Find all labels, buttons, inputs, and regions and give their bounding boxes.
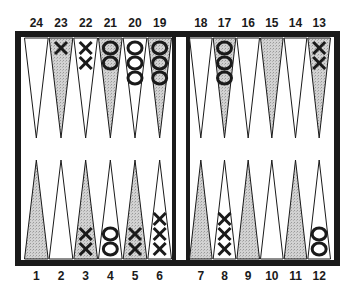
top-label-17: 17 [213,17,237,29]
bottom-label-2: 2 [49,270,73,282]
bottom-label-4: 4 [98,270,122,282]
bottom-label-10: 10 [260,270,284,282]
point-3[interactable] [74,160,98,259]
point-15[interactable] [261,38,284,138]
bottom-label-7: 7 [189,270,213,282]
point-11[interactable] [284,160,307,259]
bottom-label-6: 6 [148,270,172,282]
top-label-15: 15 [260,17,284,29]
bottom-label-5: 5 [123,270,147,282]
bottom-label-8: 8 [213,270,237,282]
point-9[interactable] [237,160,260,259]
top-label-14: 14 [284,17,308,29]
top-label-22: 22 [74,17,98,29]
point-13[interactable] [308,38,331,138]
top-label-18: 18 [189,17,213,29]
point-14[interactable] [284,38,307,138]
backgammon-board [0,0,353,298]
top-label-23: 23 [49,17,73,29]
top-label-19: 19 [148,17,172,29]
bar-left-edge [172,36,176,261]
point-5[interactable] [123,160,147,259]
point-16[interactable] [237,38,260,138]
top-label-16: 16 [236,17,260,29]
top-label-24: 24 [24,17,48,29]
top-label-13: 13 [307,17,331,29]
top-label-20: 20 [123,17,147,29]
point-10[interactable] [261,160,284,259]
point-18[interactable] [190,38,213,138]
bottom-label-9: 9 [236,270,260,282]
bottom-label-1: 1 [24,270,48,282]
point-24[interactable] [25,38,49,138]
bottom-label-3: 3 [74,270,98,282]
checkers-layer [55,42,326,255]
points-layer [25,38,331,259]
point-23[interactable] [49,38,73,138]
top-label-21: 21 [98,17,122,29]
point-6[interactable] [148,160,172,259]
point-22[interactable] [74,38,98,138]
bar-right-edge [186,36,190,261]
bottom-label-11: 11 [284,270,308,282]
point-7[interactable] [190,160,213,259]
bottom-label-12: 12 [307,270,331,282]
point-8[interactable] [213,160,236,259]
point-2[interactable] [49,160,73,259]
point-1[interactable] [25,160,49,259]
